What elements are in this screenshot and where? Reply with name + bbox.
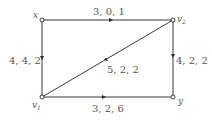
edge-label-x-v2: 3, 0, 1 — [93, 6, 125, 17]
edge-label-v2-v1: 5, 2, 2 — [107, 64, 139, 75]
flow-network-diagram: x v2 v1 y 3, 0, 1 4, 4, 2 4, 2, 2 5, 2, … — [0, 0, 212, 127]
node-v1 — [40, 95, 44, 99]
node-v2 — [171, 18, 175, 22]
edge-label-v2-y: 4, 2, 2 — [176, 55, 208, 66]
node-label-x: x — [33, 10, 38, 20]
edge-label-x-v1: 4, 4, 2 — [9, 55, 41, 66]
edge-label-v1-y: 3, 2, 6 — [92, 103, 124, 114]
arrow-right-icon — [102, 95, 106, 99]
arrow-down-icon — [171, 54, 175, 58]
node-y — [171, 95, 175, 99]
edge-v2-v1 — [42, 20, 173, 97]
node-x — [40, 18, 44, 22]
arrow-right-icon — [109, 18, 113, 22]
node-label-y: y — [177, 96, 184, 106]
node-label-v1: v1 — [32, 100, 41, 111]
node-label-v2: v2 — [177, 14, 186, 25]
